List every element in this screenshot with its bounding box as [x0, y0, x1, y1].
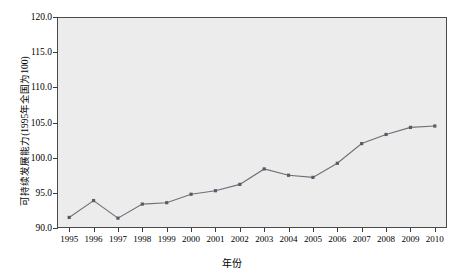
data-point-marker	[92, 199, 95, 202]
data-point-marker	[68, 216, 71, 219]
y-axis-title: 可持续发展能力(1995年全国为100)	[17, 21, 31, 241]
data-point-marker	[287, 174, 290, 177]
sustainability-line-chart: 90.095.0100.0105.0110.0115.0120.0 199519…	[0, 0, 463, 279]
data-point-marker	[189, 193, 192, 196]
data-point-marker	[263, 167, 266, 170]
data-series-layer	[0, 0, 463, 279]
data-point-marker	[384, 133, 387, 136]
data-point-marker	[165, 201, 168, 204]
x-axis-title: 年份	[0, 255, 463, 270]
data-point-marker	[360, 142, 363, 145]
data-point-marker	[238, 183, 241, 186]
data-point-marker	[116, 217, 119, 220]
data-point-marker	[214, 189, 217, 192]
data-point-marker	[336, 162, 339, 165]
data-point-marker	[141, 202, 144, 205]
data-point-marker	[433, 124, 436, 127]
data-point-marker	[311, 176, 314, 179]
series-line	[69, 126, 435, 218]
data-point-marker	[409, 126, 412, 129]
